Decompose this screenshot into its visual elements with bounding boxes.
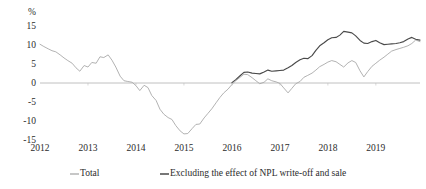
y-axis-tick-label: -5 — [28, 97, 36, 107]
line-chart: 151050-5-10-15% 201220132014201520162017… — [0, 0, 426, 189]
y-axis-tick-label: 10 — [27, 40, 37, 50]
y-axis-unit-label: % — [28, 7, 36, 17]
x-axis-tick-label: 2016 — [222, 143, 241, 153]
legend-label-excluding_npl: Excluding the effect of NPL write-off an… — [170, 168, 346, 178]
chart-container: 151050-5-10-15% 201220132014201520162017… — [0, 0, 426, 189]
y-axis-tick-label: 15 — [27, 21, 37, 31]
x-axis-tick-label: 2019 — [366, 143, 385, 153]
x-axis-tick-label: 2012 — [31, 143, 50, 153]
y-axis-tick-label: -10 — [23, 116, 36, 126]
x-axis-tick-label: 2015 — [174, 143, 193, 153]
x-axis-tick-label: 2014 — [126, 143, 145, 153]
x-axis-tick-label: 2018 — [318, 143, 337, 153]
series-line-total — [40, 40, 420, 134]
x-axis-tick-label: 2017 — [270, 143, 289, 153]
x-axis-tick-label: 2013 — [78, 143, 97, 153]
legend-label-total: Total — [80, 168, 100, 178]
y-axis: 151050-5-10-15% — [23, 7, 36, 145]
y-axis-tick-label: 5 — [31, 59, 36, 69]
x-axis: 20122013201420152016201720182019 — [31, 83, 386, 153]
series-line-excluding-npl — [232, 31, 420, 82]
chart-legend: TotalExcluding the effect of NPL write-o… — [70, 168, 346, 178]
y-axis-tick-label: 0 — [31, 78, 36, 88]
